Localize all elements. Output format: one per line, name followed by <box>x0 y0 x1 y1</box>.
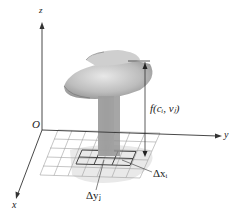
riemann-sum-3d-diagram: z y x O f(cᵢ, vⱼ) Δxᵢ Δyⱼ <box>0 0 241 216</box>
origin-label: O <box>32 119 40 130</box>
y-axis-label: y <box>224 130 228 140</box>
delta-y-label: Δyⱼ <box>86 190 101 201</box>
delta-x-label: Δxᵢ <box>153 168 167 179</box>
x-axis-label: x <box>12 200 16 210</box>
column-lower <box>98 96 114 156</box>
x-axis <box>16 130 43 199</box>
height-label: f(cᵢ, vⱼ) <box>150 103 179 114</box>
z-axis-label: z <box>39 6 43 15</box>
surface-cap <box>64 50 152 99</box>
z-axis <box>40 22 45 130</box>
diagram-canvas <box>0 0 241 216</box>
